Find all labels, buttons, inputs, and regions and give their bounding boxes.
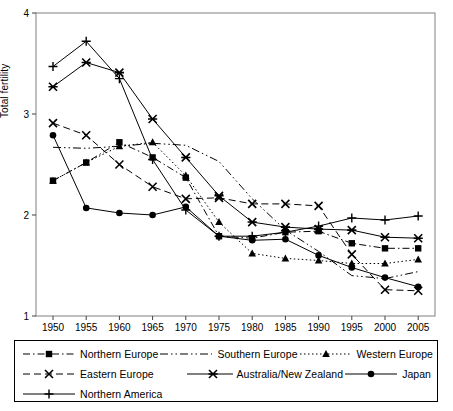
data-point [414,234,423,242]
chart-figure: Total fertility 123419501955196019651970… [0,0,453,411]
data-point [46,351,52,357]
legend-swatch-southern-europe [158,347,214,361]
legend-entry-southern-europe: Southern Europe [158,347,297,361]
data-point [382,274,389,281]
data-point [82,131,90,139]
legend-label-northern-europe: Northern Europe [77,348,158,360]
data-point [148,115,157,123]
chart-plot-area: Total fertility 123419501955196019651970… [0,0,453,340]
legend-row-3: Northern America [21,384,431,404]
data-point [248,249,256,256]
legend-swatch-australia-new-zealand [185,367,233,381]
y-tick-label: 2 [23,210,29,221]
y-tick-label: 3 [23,109,29,120]
legend-swatch-japan [343,367,399,381]
data-point [414,212,423,221]
x-tick-label: 1950 [42,322,65,333]
legend-label-southern-europe: Southern Europe [214,348,297,360]
x-tick-label: 2000 [374,322,397,333]
data-point [349,264,356,271]
series-line [53,41,418,236]
data-point [349,240,355,246]
legend-entry-northern-europe: Northern Europe [21,347,158,361]
data-point [45,390,54,399]
x-tick-label: 1970 [175,322,198,333]
plot-frame [36,13,435,316]
data-point [415,245,421,251]
data-point [414,255,422,262]
data-point [315,202,323,210]
x-tick-label: 1960 [108,322,131,333]
data-point [368,371,375,378]
x-tick-label: 2005 [407,322,430,333]
data-point [347,226,356,234]
x-tick-label: 1995 [341,322,364,333]
data-point [347,214,356,223]
legend-label-western-europe: Western Europe [354,348,433,360]
data-point [49,62,58,71]
data-point [315,252,322,259]
legend-entry-northern-america: Northern America [21,387,199,401]
x-tick-label: 1980 [241,322,264,333]
data-point [149,138,157,145]
series-line [53,63,418,239]
data-point [149,212,156,219]
legend-label-eastern-europe: Eastern Europe [77,368,154,380]
series-line [53,123,418,291]
data-point [348,250,356,258]
data-point [48,83,57,91]
data-point [115,161,123,169]
data-point [116,210,123,217]
data-point [49,119,57,127]
legend-swatch-northern-europe [21,347,77,361]
data-point [209,370,218,378]
data-point [381,259,389,266]
legend-swatch-northern-america [21,387,77,401]
legend-entry-australia-new-zealand: Australia/New Zealand [185,367,343,381]
legend-label-northern-america: Northern America [77,388,163,400]
legend-row-2: Eastern Europe Australia/New Zealand Jap… [21,364,431,384]
data-point [83,205,90,212]
data-point [181,153,190,161]
data-point [382,245,388,251]
legend-swatch-eastern-europe [21,367,77,381]
data-point [381,216,390,225]
x-tick-label: 1975 [208,322,231,333]
data-point [415,283,422,290]
x-tick-label: 1985 [274,322,297,333]
series-line [53,135,418,287]
legend-entry-japan: Japan [343,367,431,381]
legend-swatch-western-europe [298,347,354,361]
legend-label-japan: Japan [399,368,431,380]
legend-row-1: Northern Europe Southern Europe Western … [21,344,431,364]
y-tick-label: 4 [23,8,29,19]
x-tick-label: 1990 [307,322,330,333]
data-point [282,236,289,243]
line-chart-svg: 1234195019551960196519701975198019851990… [0,0,453,340]
data-point [380,233,389,241]
data-point [50,132,57,139]
data-point [82,58,91,66]
y-axis-title: Total fertility [0,64,10,118]
legend-label-australia-new-zealand: Australia/New Zealand [233,368,343,380]
x-tick-label: 1965 [141,322,164,333]
data-point [248,218,257,226]
chart-legend: Northern Europe Southern Europe Western … [14,340,438,402]
legend-entry-western-europe: Western Europe [298,347,433,361]
y-tick-label: 1 [23,311,29,322]
x-tick-label: 1955 [75,322,98,333]
legend-entry-eastern-europe: Eastern Europe [21,367,185,381]
data-point [149,183,157,191]
